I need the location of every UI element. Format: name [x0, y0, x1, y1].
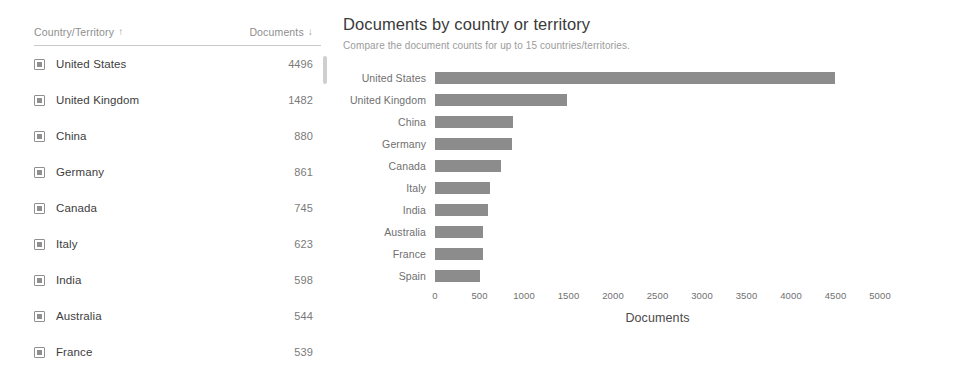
- chart-bar[interactable]: [435, 160, 501, 172]
- chart-category-label: China: [343, 116, 435, 128]
- chart-bar-track: [435, 265, 940, 287]
- table-cell-country: India: [56, 274, 294, 286]
- document-square-icon: [34, 167, 45, 178]
- chart-bar-track: [435, 221, 940, 243]
- chart-x-tick-label: 4000: [780, 290, 802, 301]
- chart-x-tick-label: 5000: [869, 290, 891, 301]
- chart-bar-row: Australia: [343, 221, 940, 243]
- document-square-icon: [34, 131, 45, 142]
- document-square-icon: [34, 203, 45, 214]
- chart-category-label: Germany: [343, 138, 435, 150]
- chart-category-label: India: [343, 204, 435, 216]
- chart-bar-row: Canada: [343, 155, 940, 177]
- table-cell-country: Germany: [56, 166, 294, 178]
- chart-bar[interactable]: [435, 138, 512, 150]
- chart-x-tick-label: 0: [432, 290, 437, 301]
- table-scrollbar-thumb[interactable]: [323, 56, 327, 84]
- chart-bar-row: United States: [343, 67, 940, 89]
- document-square-icon: [34, 347, 45, 358]
- table-row[interactable]: Australia 544: [0, 298, 335, 334]
- table-cell-country: Canada: [56, 202, 294, 214]
- document-square-icon: [34, 275, 45, 286]
- chart-bar-row: Italy: [343, 177, 940, 199]
- table-row[interactable]: Italy 623: [0, 226, 335, 262]
- chart-x-tick-label: 3500: [736, 290, 758, 301]
- chart-title: Documents by country or territory: [343, 14, 940, 35]
- chart-x-tick-label: 1000: [513, 290, 535, 301]
- chart-bar-track: [435, 199, 940, 221]
- chart-x-tick-label: 500: [471, 290, 487, 301]
- chart-bar[interactable]: [435, 72, 835, 84]
- chart-plot-area: United StatesUnited KingdomChinaGermanyC…: [343, 67, 940, 285]
- table-cell-documents: 623: [294, 238, 313, 250]
- table-body: United States 4496 United Kingdom 1482 C…: [0, 46, 335, 370]
- chart-bar[interactable]: [435, 248, 483, 260]
- document-square-icon: [34, 95, 45, 106]
- table-cell-country: China: [56, 130, 294, 142]
- table-header-row: Country/Territory ↑ Documents ↓: [0, 18, 335, 38]
- chart-category-label: Italy: [343, 182, 435, 194]
- chart-bar-track: [435, 177, 940, 199]
- chart-x-tick-label: 3000: [691, 290, 713, 301]
- table-cell-country: France: [56, 346, 294, 358]
- chart-bar-track: [435, 133, 940, 155]
- table-cell-country: Australia: [56, 310, 294, 322]
- table-row[interactable]: United States 4496: [0, 46, 335, 82]
- table-row[interactable]: India 598: [0, 262, 335, 298]
- chart-category-label: Australia: [343, 226, 435, 238]
- table-cell-documents: 544: [294, 310, 313, 322]
- table-cell-documents: 598: [294, 274, 313, 286]
- chart-bars: United StatesUnited KingdomChinaGermanyC…: [343, 67, 940, 287]
- table-cell-country: United States: [56, 58, 288, 70]
- chart-x-axis-label: Documents: [435, 311, 880, 325]
- table-row[interactable]: France 539: [0, 334, 335, 370]
- chart-x-tick-label: 1500: [558, 290, 580, 301]
- table-cell-documents: 880: [294, 130, 313, 142]
- chart-bar[interactable]: [435, 226, 483, 238]
- column-header-documents-label: Documents: [249, 26, 303, 38]
- column-header-country[interactable]: Country/Territory ↑: [34, 26, 249, 38]
- chart-bar-track: [435, 67, 940, 89]
- chart-category-label: France: [343, 248, 435, 260]
- country-table-panel: Country/Territory ↑ Documents ↓ United S…: [0, 0, 335, 380]
- chart-bar-row: United Kingdom: [343, 89, 940, 111]
- table-cell-country: United Kingdom: [56, 94, 288, 106]
- table-row[interactable]: United Kingdom 1482: [0, 82, 335, 118]
- arrow-up-icon[interactable]: ↑: [118, 27, 123, 37]
- chart-bar-row: China: [343, 111, 940, 133]
- chart-bar-track: [435, 243, 940, 265]
- chart-category-label: United Kingdom: [343, 94, 435, 106]
- chart-bar-track: [435, 111, 940, 133]
- table-row[interactable]: China 880: [0, 118, 335, 154]
- chart-bar[interactable]: [435, 116, 513, 128]
- chart-bar[interactable]: [435, 270, 480, 282]
- column-header-country-label: Country/Territory: [34, 26, 114, 38]
- document-square-icon: [34, 59, 45, 70]
- chart-x-tick-label: 2500: [647, 290, 669, 301]
- table-cell-country: Italy: [56, 238, 294, 250]
- document-square-icon: [34, 311, 45, 322]
- chart-x-tick-label: 4500: [825, 290, 847, 301]
- chart-x-axis: 0500100015002000250030003500400045005000: [435, 287, 940, 309]
- chart-bar[interactable]: [435, 182, 490, 194]
- chart-bar-row: Spain: [343, 265, 940, 287]
- chart-bar-row: Germany: [343, 133, 940, 155]
- arrow-down-icon[interactable]: ↓: [308, 27, 313, 37]
- chart-bar-track: [435, 89, 940, 111]
- table-cell-documents: 745: [294, 202, 313, 214]
- chart-bar-row: India: [343, 199, 940, 221]
- chart-bar[interactable]: [435, 204, 488, 216]
- table-cell-documents: 4496: [288, 58, 313, 70]
- chart-bar-row: France: [343, 243, 940, 265]
- chart-subtitle: Compare the document counts for up to 15…: [343, 40, 940, 51]
- table-cell-documents: 1482: [288, 94, 313, 106]
- chart-x-tick-label: 2000: [602, 290, 624, 301]
- table-scrollbar[interactable]: [323, 46, 327, 370]
- app-root: Country/Territory ↑ Documents ↓ United S…: [0, 0, 958, 380]
- chart-bar[interactable]: [435, 94, 567, 106]
- chart-bar-track: [435, 155, 940, 177]
- table-row[interactable]: Canada 745: [0, 190, 335, 226]
- column-header-documents[interactable]: Documents ↓: [249, 26, 313, 38]
- chart-category-label: Canada: [343, 160, 435, 172]
- table-row[interactable]: Germany 861: [0, 154, 335, 190]
